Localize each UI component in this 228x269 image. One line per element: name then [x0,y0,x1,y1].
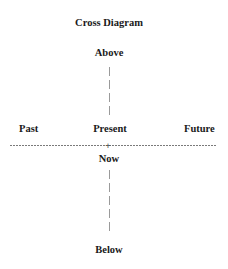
label-past: Past [19,123,38,135]
label-above: Above [95,47,124,59]
label-present: Present [93,123,127,135]
horizontal-axis [10,145,217,146]
label-below: Below [95,244,122,256]
center-cross-marker: + [105,141,110,150]
vertical-axis-upper [109,67,110,119]
label-now: Now [99,153,119,165]
vertical-axis-lower [109,170,110,234]
label-future: Future [184,123,215,135]
diagram-title: Cross Diagram [75,17,143,29]
